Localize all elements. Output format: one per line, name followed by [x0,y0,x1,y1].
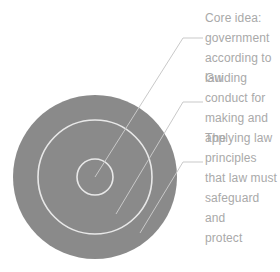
callout-principles: The principles that law must safeguard a… [205,128,280,248]
concentric-circle-diagram: Core idea: government according to law G… [0,0,280,272]
